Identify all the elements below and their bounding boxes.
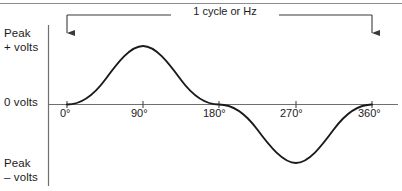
cycle-caption-label: 1 cycle or Hz [171, 5, 279, 18]
x-tick-label-0: 0° [60, 107, 71, 120]
x-tick-label-360: 360° [358, 107, 381, 120]
x-tick-label-270: 270° [280, 107, 303, 120]
x-tick-label-90: 90° [131, 107, 148, 120]
x-tick-label-180: 180° [203, 107, 226, 120]
sine-wave-figure: Peak+ volts 0 volts Peak– volts 1 cycle … [0, 0, 402, 191]
sine-wave-plot [0, 0, 402, 191]
